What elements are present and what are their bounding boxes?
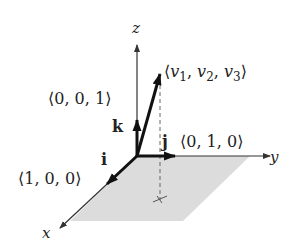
i-label: i [101, 150, 107, 169]
v-vector-arrow [137, 74, 160, 156]
j-coords-label: ⟨0, 1, 0⟩ [180, 132, 243, 151]
x-axis-label: x [42, 224, 51, 242]
v-sep-1: , [187, 62, 197, 81]
vector-diagram: z y x k j i ⟨0, 0, 1⟩ ⟨0, 1, 0⟩ ⟨1, 0, 0… [0, 0, 293, 247]
v3-subscript: 3 [233, 70, 241, 84]
v-sep-2: , [214, 62, 224, 81]
i-coords-label: ⟨1, 0, 0⟩ [18, 169, 81, 188]
v2-subscript: 2 [206, 70, 214, 84]
v2-symbol: v [197, 62, 206, 81]
v-close-bracket: ⟩ [241, 62, 247, 81]
v1-symbol: v [170, 62, 179, 81]
v3-symbol: v [224, 62, 233, 81]
v1-subscript: 1 [179, 70, 187, 84]
y-axis-label: y [269, 148, 279, 166]
j-label: j [160, 132, 168, 151]
z-axis-label: z [131, 19, 140, 37]
k-label: k [112, 117, 124, 136]
v-coords-label: ⟨v1, v2, v3⟩ [164, 62, 247, 84]
k-coords-label: ⟨0, 0, 1⟩ [48, 89, 111, 108]
